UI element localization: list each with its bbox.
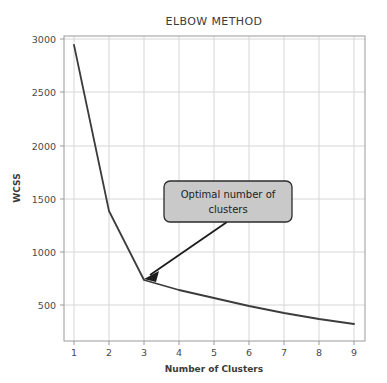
xtick-label-2: 2: [106, 347, 112, 358]
chart-figure: 500 1000 1500 2000 2500 3000 1 2 3 4 5 6…: [0, 0, 387, 383]
ytick-label-2500: 2500: [32, 87, 56, 98]
xtick-label-3: 3: [141, 347, 147, 358]
elbow-method-chart: 500 1000 1500 2000 2500 3000 1 2 3 4 5 6…: [0, 0, 387, 383]
y-axis-label: WCSS: [12, 173, 22, 202]
xtick-label-8: 8: [316, 347, 322, 358]
ytick-label-3000: 3000: [32, 34, 56, 45]
ytick-label-2000: 2000: [32, 141, 56, 152]
xtick-label-1: 1: [71, 347, 77, 358]
xtick-label-7: 7: [281, 347, 287, 358]
ytick-label-1500: 1500: [32, 194, 56, 205]
annotation-text-line2: clusters: [208, 204, 247, 215]
xtick-label-4: 4: [176, 347, 182, 358]
xtick-label-5: 5: [211, 347, 217, 358]
x-axis-label: Number of Clusters: [165, 364, 263, 374]
annotation-callout[interactable]: Optimal number of clusters: [164, 181, 292, 222]
annotation-box[interactable]: [164, 181, 292, 222]
xtick-label-9: 9: [351, 347, 357, 358]
chart-title: ELBOW METHOD: [166, 15, 263, 28]
ytick-label-500: 500: [38, 300, 56, 311]
ytick-label-1000: 1000: [32, 247, 56, 258]
annotation-text-line1: Optimal number of: [181, 189, 276, 200]
xtick-label-6: 6: [246, 347, 252, 358]
